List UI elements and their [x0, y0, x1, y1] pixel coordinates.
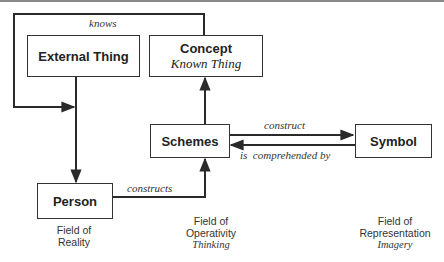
node-title: Person [53, 194, 97, 209]
field-line: Reality [44, 236, 104, 248]
node-concept: Concept Known Thing [149, 35, 263, 77]
field-line: Field of [350, 215, 440, 227]
field-line: Field of [44, 224, 104, 236]
field-line: Thinking [176, 239, 246, 251]
field-reality: Field of Reality [44, 224, 104, 248]
node-title: Concept [180, 41, 232, 56]
node-title: Symbol [370, 134, 417, 149]
edge-label-comprehended-by: is comprehended by [240, 149, 330, 161]
node-person: Person [37, 183, 113, 219]
node-external-thing: External Thing [27, 35, 140, 77]
node-schemes: Schemes [150, 124, 230, 158]
node-subtitle: Known Thing [171, 56, 241, 71]
field-line: Field of [176, 215, 246, 227]
edge-label-construct: construct [264, 119, 305, 131]
field-operativity: Field of Operativity Thinking [176, 215, 246, 251]
field-line: Representation [350, 227, 440, 239]
node-title: External Thing [38, 49, 128, 64]
edge-label-constructs: constructs [127, 182, 172, 194]
node-symbol: Symbol [355, 124, 432, 158]
edge-label-knows: knows [89, 17, 117, 29]
field-representation: Field of Representation Imagery [350, 215, 440, 251]
field-line: Operativity [176, 227, 246, 239]
field-line: Imagery [350, 239, 440, 251]
node-title: Schemes [161, 134, 218, 149]
